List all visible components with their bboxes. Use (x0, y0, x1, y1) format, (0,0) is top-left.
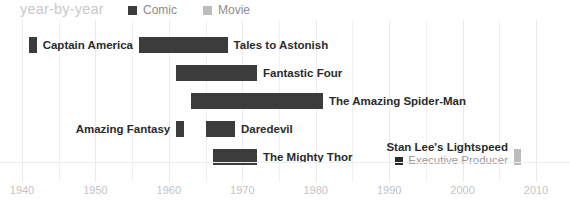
axis-tick-label: 1970 (230, 184, 254, 196)
x-axis: 19401950196019701980199020002010 (0, 184, 570, 204)
movie-annotation: Stan Lee's LightspeedExecutive Producer (386, 141, 508, 167)
timeline-bar[interactable] (176, 121, 183, 137)
timeline-bar[interactable] (191, 93, 323, 109)
axis-tick-label: 2000 (450, 184, 474, 196)
axis-tick-label: 1990 (377, 184, 401, 196)
movie-role: Executive Producer (386, 154, 508, 167)
legend-label: Comic (143, 3, 177, 17)
movie-title: Stan Lee's Lightspeed (386, 141, 508, 154)
square-swatch-icon (128, 6, 137, 15)
axis-tick-label: 1950 (83, 184, 107, 196)
plot-area: Captain AmericaTales to AstonishFantasti… (0, 20, 570, 182)
axis-tick-label: 1940 (10, 184, 34, 196)
axis-tick-label: 2010 (524, 184, 548, 196)
timeline-bar[interactable] (206, 121, 235, 137)
legend-item-movie[interactable]: Movie (203, 3, 250, 17)
bar-label: Captain America (43, 37, 133, 53)
role-marker-icon (395, 157, 403, 165)
axis-baseline (0, 162, 570, 163)
movie-role-label: Executive Producer (408, 154, 508, 167)
page-title: year-by-year (20, 1, 104, 17)
bar-label: Fantastic Four (263, 65, 342, 81)
bar-label: Tales to Astonish (234, 37, 329, 53)
gridline (536, 20, 537, 182)
square-swatch-icon (203, 6, 212, 15)
timeline-bar[interactable] (29, 37, 36, 53)
year-by-year-timeline-chart: year-by-year Comic Movie Captain America… (0, 0, 570, 208)
gridline (22, 20, 23, 182)
axis-tick-label: 1960 (157, 184, 181, 196)
bar-label: The Amazing Spider-Man (329, 93, 466, 109)
timeline-bar[interactable] (176, 65, 257, 81)
chart-legend: Comic Movie (128, 3, 250, 17)
bar-label: Amazing Fantasy (76, 121, 171, 137)
bar-label: Daredevil (241, 121, 293, 137)
axis-tick-label: 1980 (303, 184, 327, 196)
legend-label: Movie (218, 3, 250, 17)
timeline-bar[interactable] (139, 37, 227, 53)
legend-item-comic[interactable]: Comic (128, 3, 177, 17)
